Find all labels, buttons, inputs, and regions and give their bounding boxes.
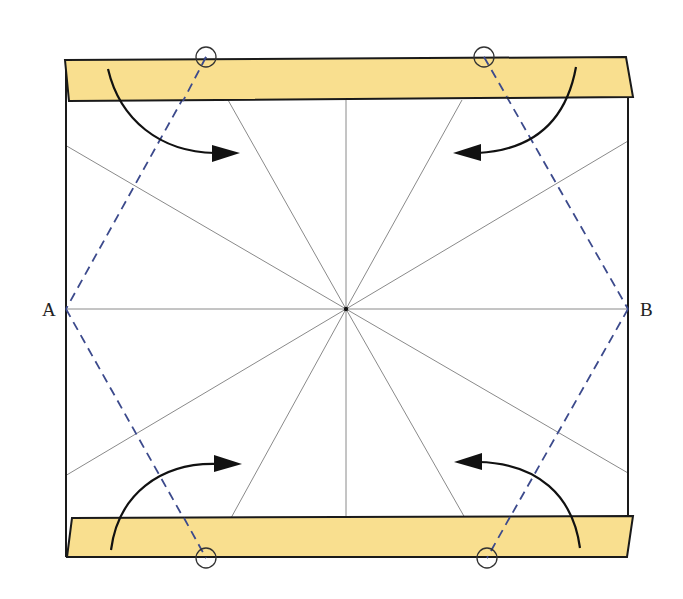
origami-diagram xyxy=(0,0,683,599)
top-folded-strip xyxy=(65,57,633,101)
bottom-folded-strip xyxy=(67,516,633,557)
center-point xyxy=(344,307,348,311)
point-b-label: B xyxy=(640,300,653,319)
point-a-label: A xyxy=(42,300,56,319)
